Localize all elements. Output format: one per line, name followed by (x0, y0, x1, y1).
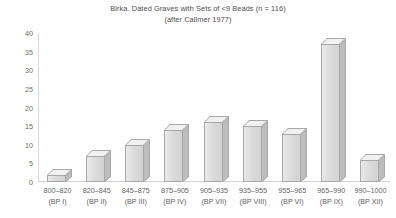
plot-area: 4035302520151050 (38, 33, 390, 182)
bar-front-face (321, 44, 340, 182)
bar[interactable] (360, 160, 379, 182)
chart-subtitle: (after Callmer 1977) (0, 14, 396, 25)
bar[interactable] (125, 145, 144, 182)
bar-front-face (204, 122, 223, 182)
x-label-phase: (BP XII) (347, 197, 394, 208)
x-tick-label: 990–1000(BP XII) (347, 186, 394, 207)
bar-side-face (301, 128, 307, 182)
y-tick-label: 5 (29, 159, 33, 168)
bar[interactable] (86, 156, 105, 182)
bar-side-face (144, 139, 150, 182)
y-tick-label: 0 (29, 178, 33, 187)
bar-front-face (125, 145, 144, 182)
bar-front-face (86, 156, 105, 182)
chart-title: Birka. Dated Graves with Sets of <9 Bead… (0, 3, 396, 14)
bar-slot (86, 33, 105, 182)
chart-title-block: Birka. Dated Graves with Sets of <9 Bead… (0, 3, 396, 25)
bar-slot (321, 33, 340, 182)
y-tick-label: 15 (25, 122, 33, 131)
bar-slot (125, 33, 144, 182)
bar-slot (360, 33, 379, 182)
bar-slot (204, 33, 223, 182)
bar-series (38, 33, 390, 182)
bar[interactable] (282, 134, 301, 182)
bar-front-face (282, 134, 301, 182)
bar-front-face (360, 160, 379, 182)
bar-side-face (340, 39, 346, 182)
bar-side-face (183, 124, 189, 182)
bar[interactable] (164, 130, 183, 182)
y-tick-label: 20 (25, 103, 33, 112)
x-axis-labels: 800–820(BP I)820–845(BP II)845–875(BP II… (38, 186, 390, 216)
bar-slot (243, 33, 262, 182)
bar-front-face (164, 130, 183, 182)
bar[interactable] (47, 175, 66, 182)
y-tick-label: 30 (25, 66, 33, 75)
bar-chart: Birka. Dated Graves with Sets of <9 Bead… (0, 0, 396, 218)
bar[interactable] (321, 44, 340, 182)
y-tick-label: 10 (25, 140, 33, 149)
bar-front-face (47, 175, 66, 182)
bar[interactable] (204, 122, 223, 182)
y-tick-label: 35 (25, 47, 33, 56)
bar-slot (47, 33, 66, 182)
bar[interactable] (243, 126, 262, 182)
bar-side-face (262, 121, 268, 182)
y-tick-label: 40 (25, 29, 33, 38)
y-tick-label: 25 (25, 84, 33, 93)
bar-side-face (223, 117, 229, 182)
bar-slot (282, 33, 301, 182)
bar-side-face (105, 150, 111, 182)
bar-front-face (243, 126, 262, 182)
bar-slot (164, 33, 183, 182)
x-label-range: 990–1000 (347, 186, 394, 197)
